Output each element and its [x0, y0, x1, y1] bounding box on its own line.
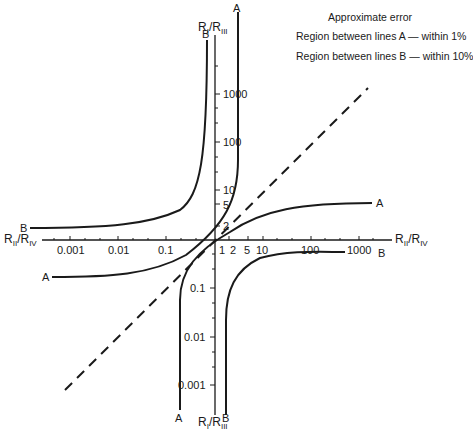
legend-title: Approximate error — [328, 11, 412, 23]
y-tick-0.1: 0.1 — [190, 282, 205, 294]
curve-label-a-right: A — [376, 197, 383, 209]
x-tick-0.01: 0.01 — [108, 244, 129, 256]
x-tick-1: 1 — [219, 244, 225, 256]
curve-b-lower-right — [226, 252, 345, 415]
y-tick-100: 100 — [223, 136, 241, 148]
legend-line-b: Region between lines B — within 10% — [296, 50, 473, 62]
curve-label-b-right: B — [378, 247, 385, 259]
curve-a-upper-left — [52, 12, 238, 277]
x-tick-1000: 1000 — [347, 244, 371, 256]
curve-label-a-left: A — [42, 271, 49, 283]
x-tick-0.1: 0.1 — [158, 244, 173, 256]
x-axis-title-right: RII/RIV — [395, 232, 428, 248]
y-tick-0.001: 0.001 — [178, 379, 206, 391]
y-tick-10: 10 — [223, 184, 235, 196]
y-tick-0.01: 0.01 — [184, 331, 205, 343]
x-axis-title-left: RII/RIV — [4, 232, 37, 248]
x-tick-0.001: 0.001 — [57, 244, 85, 256]
x-tick-100: 100 — [301, 244, 319, 256]
y-tick-1000: 1000 — [223, 88, 247, 100]
diagonal-dashed-line — [65, 88, 368, 390]
curve-label-a-top: A — [233, 2, 240, 14]
y-tick-5: 5 — [223, 199, 229, 211]
curve-label-a-bottom: A — [175, 412, 182, 424]
legend-line-a: Region between lines A — within 1% — [296, 30, 466, 42]
curve-label-b-bottom: B — [222, 412, 229, 424]
curve-label-b-left: B — [20, 222, 27, 234]
y-tick-2: 2 — [223, 220, 229, 232]
x-tick-5: 5 — [244, 244, 250, 256]
curve-label-b-top: B — [202, 28, 209, 40]
x-tick-10: 10 — [256, 244, 268, 256]
x-tick-2: 2 — [230, 244, 236, 256]
curve-b-upper-left — [30, 40, 207, 228]
